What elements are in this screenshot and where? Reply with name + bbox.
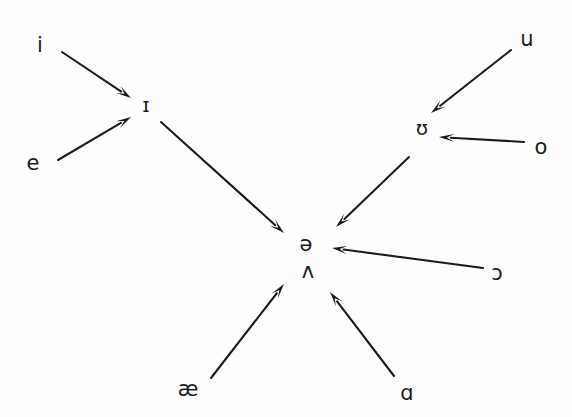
arrow-shaft [62, 52, 121, 92]
vowel-symbol-u: u [520, 29, 533, 50]
vowel-reduction-figure: iɪeuʊoəʌɔæɑ [0, 0, 572, 417]
arrow-small_i-to-schwa [161, 122, 284, 233]
arrow-openo-to-schwa [332, 246, 483, 268]
vowel-symbol-small_i: ɪ [142, 95, 149, 115]
vowel-symbol-o: o [535, 137, 548, 158]
arrow-shaft [344, 250, 483, 268]
diagram-canvas [0, 0, 572, 417]
arrow-shaft [440, 50, 511, 106]
arrow-scripta-to-wedge [330, 292, 394, 376]
arrow-e-to-small_i [58, 117, 131, 160]
vowel-symbol-upsilon: ʊ [416, 118, 428, 138]
arrow-upsilon-to-schwa [336, 157, 409, 227]
vowel-symbol-schwa: ə [300, 234, 313, 255]
vowel-symbol-wedge: ʌ [302, 261, 314, 282]
arrow-head [116, 117, 131, 128]
arrow-shaft [451, 138, 524, 142]
vowel-symbol-e: e [27, 153, 40, 174]
vowel-symbol-ash: æ [178, 379, 199, 400]
arrow-shaft [58, 123, 121, 160]
arrow-u-to-upsilon [431, 50, 511, 113]
arrow-head [116, 86, 131, 98]
arrow-shaft [161, 122, 275, 225]
vowel-symbol-openo: ɔ [491, 263, 503, 284]
arrow-shaft [211, 293, 277, 378]
arrow-o-to-upsilon [439, 134, 524, 142]
arrow-ash-to-wedge [211, 284, 284, 378]
arrow-shaft [344, 157, 409, 219]
vowel-symbol-scripta: ɑ [400, 383, 413, 404]
arrow-shaft [337, 301, 394, 376]
vowel-symbol-i: i [37, 35, 43, 56]
arrow-i-to-small_i [62, 52, 131, 98]
